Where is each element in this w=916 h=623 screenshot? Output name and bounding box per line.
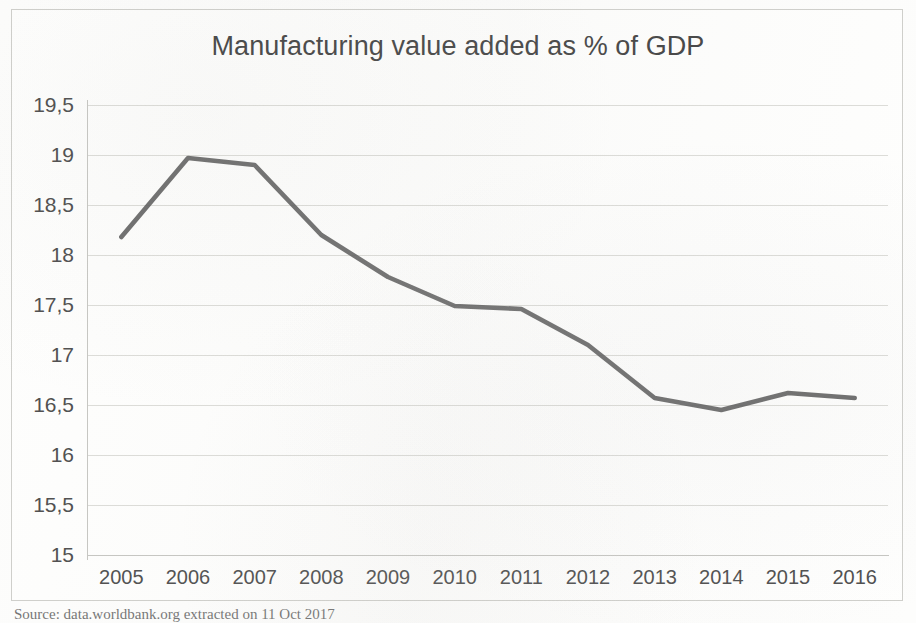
data-series-line bbox=[0, 0, 916, 623]
series-line-manufacturing-value-added bbox=[121, 158, 854, 410]
chart-figure: Manufacturing value added as % of GDP 19… bbox=[0, 0, 916, 623]
